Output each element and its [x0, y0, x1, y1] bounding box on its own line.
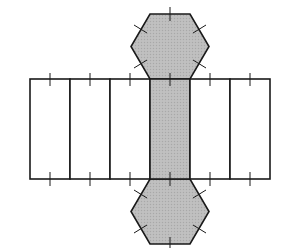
- lateral-face-4-shaded: [150, 79, 190, 179]
- lateral-faces: [30, 79, 270, 179]
- top-hexagon-base: [131, 14, 209, 79]
- lateral-face-6: [230, 79, 270, 179]
- hexagonal-prism-net: [0, 0, 290, 248]
- lateral-face-1: [30, 79, 70, 179]
- lateral-face-2: [70, 79, 110, 179]
- bottom-hexagon-base: [131, 179, 209, 244]
- lateral-face-3: [110, 79, 150, 179]
- lateral-face-5: [190, 79, 230, 179]
